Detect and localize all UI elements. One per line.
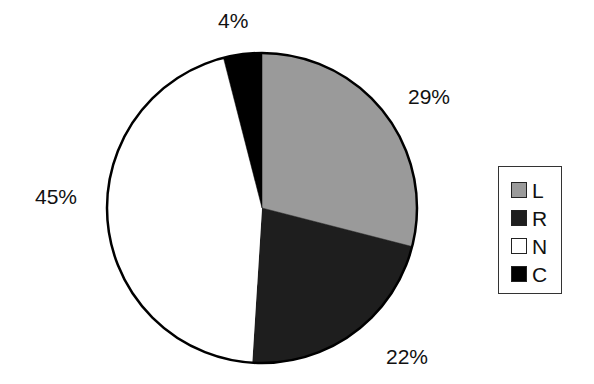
legend-swatch-c <box>511 266 527 282</box>
slice-label-l: 29% <box>408 86 450 107</box>
legend-swatch-n <box>511 238 527 254</box>
legend-label: N <box>532 236 547 257</box>
legend-label: R <box>532 208 547 229</box>
legend-item-c: C <box>511 263 547 285</box>
legend-label: C <box>532 264 547 285</box>
pie-slices <box>107 53 417 363</box>
legend-label: L <box>532 180 544 201</box>
slice-label-r: 22% <box>386 346 428 367</box>
legend: L R N C <box>498 166 562 294</box>
legend-swatch-r <box>511 210 527 226</box>
slice-label-n: 45% <box>35 186 77 207</box>
legend-item-r: R <box>511 207 547 229</box>
legend-swatch-l <box>511 182 527 198</box>
legend-item-l: L <box>511 179 544 201</box>
slice-label-c: 4% <box>218 10 248 31</box>
legend-item-n: N <box>511 235 547 257</box>
